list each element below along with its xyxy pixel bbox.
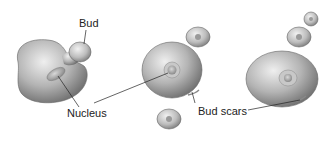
- bud: [69, 42, 91, 62]
- diagram-canvas: [0, 0, 330, 141]
- label-nucleus: Nucleus: [67, 107, 107, 119]
- label-bud: Bud: [79, 17, 99, 29]
- leader-bud: [84, 30, 86, 44]
- label-bud-scars: Bud scars: [198, 105, 247, 117]
- cell-left: [17, 40, 91, 103]
- nucleus-right: [284, 74, 292, 82]
- yeast-budding-diagram: Bud Nucleus Bud scars: [0, 0, 330, 141]
- cell-right: [246, 12, 318, 107]
- nucleus-center: [168, 66, 177, 75]
